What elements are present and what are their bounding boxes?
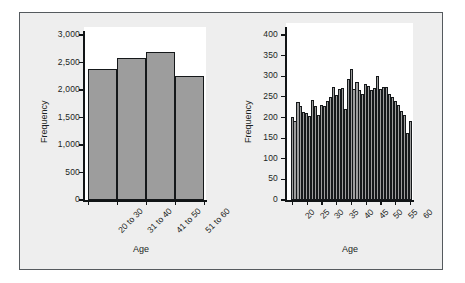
- y-tick-label: 3,000: [42, 29, 80, 39]
- x-axis-tick: [366, 201, 367, 205]
- y-axis-tick: [281, 34, 285, 35]
- x-tick-label: 25: [317, 207, 331, 221]
- x-tick-label: 41 to 50: [174, 206, 203, 235]
- y-tick-label: 500: [42, 167, 80, 177]
- x-tick-label: 40: [362, 207, 376, 221]
- y-tick-label: 100: [248, 153, 278, 163]
- x-axis-tick: [175, 201, 176, 205]
- y-axis-tick: [281, 96, 285, 97]
- x-axis-tick: [88, 201, 89, 205]
- y-axis-tick: [79, 117, 83, 118]
- x-tick-label: 31 to 40: [145, 206, 174, 235]
- x-tick-label: 20: [303, 207, 317, 221]
- y-axis-tick: [281, 158, 285, 159]
- x-axis-tick: [204, 201, 205, 205]
- x-axis-tick: [307, 201, 308, 205]
- x-axis-title-left: Age: [133, 244, 149, 254]
- y-tick-label: 2,000: [42, 84, 80, 94]
- y-tick-label: 1,500: [42, 112, 80, 122]
- x-tick-label: 20 to 30: [116, 206, 145, 235]
- y-axis-tick: [79, 89, 83, 90]
- y-axis-tick: [79, 62, 83, 63]
- y-axis-tick: [281, 179, 285, 180]
- bar-left-3: [175, 76, 204, 200]
- y-tick-label: 250: [248, 91, 278, 101]
- y-axis-tick: [281, 55, 285, 56]
- y-tick-label: 1,000: [42, 139, 80, 149]
- y-tick-label: 150: [248, 132, 278, 142]
- y-axis-tick: [281, 117, 285, 118]
- y-tick-label: 0: [248, 194, 278, 204]
- x-tick-label: 30: [332, 207, 346, 221]
- y-axis-tick: [79, 172, 83, 173]
- x-tick-label: 55: [406, 207, 420, 221]
- y-tick-label: 350: [248, 50, 278, 60]
- chart-right-age-histogram: Frequency 400 350 300 250 200 150 100 50…: [232, 13, 444, 271]
- y-tick-label: 0: [42, 194, 80, 204]
- y-tick-label: 400: [248, 29, 278, 39]
- y-tick-label: 300: [248, 70, 278, 80]
- x-axis-tick: [117, 201, 118, 205]
- figure-panel: Frequency 3,000 2,500 2,000 1,500 1,000 …: [19, 12, 443, 270]
- x-axis-tick: [292, 201, 293, 205]
- x-axis-line-left: [83, 200, 207, 202]
- x-axis-tick: [146, 201, 147, 205]
- bar-left-0: [88, 69, 117, 200]
- x-axis-tick: [351, 201, 352, 205]
- bar-left-2: [146, 52, 175, 200]
- x-axis-tick: [321, 201, 322, 205]
- x-axis-tick: [410, 201, 411, 205]
- x-axis-tick: [380, 201, 381, 205]
- y-axis-tick: [281, 76, 285, 77]
- y-axis-title-left: Frequency: [39, 100, 49, 143]
- y-axis-tick: [281, 138, 285, 139]
- x-tick-label: 45: [376, 207, 390, 221]
- x-tick-label: 50: [391, 207, 405, 221]
- y-axis-tick: [79, 144, 83, 145]
- x-tick-label: 51 to 60: [203, 206, 232, 235]
- bar-right-60: [409, 121, 412, 200]
- y-tick-label: 50: [248, 173, 278, 183]
- y-axis-line-left: [83, 31, 85, 201]
- y-tick-label: 2,500: [42, 57, 80, 67]
- x-tick-label: 35: [347, 207, 361, 221]
- x-axis-tick: [336, 201, 337, 205]
- y-axis-line-right: [285, 27, 287, 201]
- x-axis-title-right: Age: [342, 244, 358, 254]
- bar-left-1: [117, 58, 146, 200]
- x-tick-label: 60: [421, 207, 435, 221]
- y-axis-tick: [79, 34, 83, 35]
- chart-left-grouped-age-bars: Frequency 3,000 2,500 2,000 1,500 1,000 …: [20, 13, 232, 271]
- x-axis-tick: [395, 201, 396, 205]
- y-tick-label: 200: [248, 112, 278, 122]
